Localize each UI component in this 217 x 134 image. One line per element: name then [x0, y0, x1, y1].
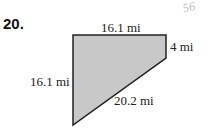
right-side-label: 4 mi	[170, 39, 193, 55]
diagonal-side-label: 20.2 mi	[114, 93, 154, 109]
top-side-label: 16.1 mi	[101, 20, 141, 36]
left-side-label: 16.1 mi	[30, 74, 70, 90]
